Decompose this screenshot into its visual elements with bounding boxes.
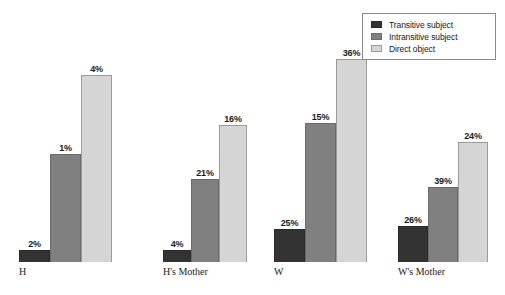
legend-item-transitive-subject[interactable]: Transitive subject <box>371 19 489 30</box>
bar-value-label: 21% <box>196 168 213 178</box>
legend-item-label: Transitive subject <box>389 20 453 30</box>
bar-transitive-subject[interactable]: 25% <box>274 229 305 262</box>
bar-value-label: 25% <box>281 218 298 228</box>
bar-value-label: 2% <box>28 239 41 249</box>
bar-transitive-subject[interactable]: 2% <box>19 250 50 262</box>
chart-legend: Transitive subject Intransitive subject … <box>362 13 496 60</box>
bar-value-label: 39% <box>434 176 451 186</box>
bar-transitive-subject[interactable]: 4% <box>163 250 191 262</box>
bar-transitive-subject[interactable]: 26% <box>398 226 428 262</box>
bar-chart: 2% 1% 4% H 4% 21% 16% <box>0 0 505 295</box>
bar-direct-object[interactable]: 16% <box>219 125 247 262</box>
bar-value-label: 36% <box>343 48 360 58</box>
bar-group-bars: 25% 15% 36% <box>274 32 367 262</box>
bar-direct-object[interactable]: 24% <box>458 142 488 262</box>
bar-value-label: 4% <box>90 64 103 74</box>
bar-intransitive-subject[interactable]: 39% <box>428 187 458 262</box>
legend-item-label: Intransitive subject <box>389 32 457 42</box>
bar-group-bars: 4% 21% 16% <box>163 32 247 262</box>
bar-value-label: 15% <box>312 112 329 122</box>
legend-swatch-icon <box>371 33 382 40</box>
legend-swatch-icon <box>371 45 382 52</box>
bar-group-bars: 2% 1% 4% <box>19 32 112 262</box>
bar-value-label: 26% <box>404 215 421 225</box>
legend-item-label: Direct object <box>389 44 435 54</box>
legend-item-direct-object[interactable]: Direct object <box>371 43 489 54</box>
bar-value-label: 16% <box>224 114 241 124</box>
bar-group-bars: 26% 39% 24% <box>398 32 488 262</box>
legend-item-intransitive-subject[interactable]: Intransitive subject <box>371 31 489 42</box>
bar-value-label: 24% <box>464 131 481 141</box>
bar-value-label: 1% <box>59 143 72 153</box>
bar-value-label: 4% <box>171 239 184 249</box>
bar-intransitive-subject[interactable]: 21% <box>191 179 219 262</box>
bar-direct-object[interactable]: 36% <box>336 59 367 262</box>
bar-intransitive-subject[interactable]: 1% <box>50 154 81 262</box>
bar-direct-object[interactable]: 4% <box>81 75 112 262</box>
bar-intransitive-subject[interactable]: 15% <box>305 123 336 262</box>
legend-swatch-icon <box>371 21 382 28</box>
